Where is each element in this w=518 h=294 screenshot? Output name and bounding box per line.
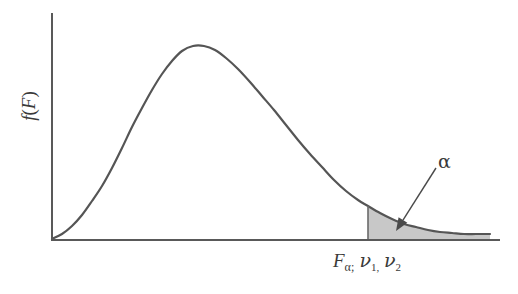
f-distribution-figure: f(F) Fα; ν1, ν2 α (0, 0, 518, 294)
density-curve (52, 45, 490, 239)
alpha-annotation-arrow-shaft (403, 168, 436, 220)
chart-canvas (0, 0, 518, 294)
